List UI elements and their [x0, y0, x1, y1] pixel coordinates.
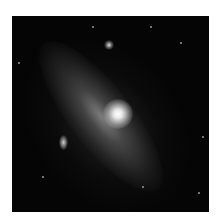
star: [142, 186, 144, 188]
star: [92, 26, 94, 28]
star: [18, 62, 20, 64]
star: [198, 192, 200, 194]
galaxy-image: [12, 16, 209, 212]
galaxy-core: [103, 99, 133, 129]
star: [42, 176, 44, 178]
satellite-galaxy-lower: [59, 135, 68, 150]
star: [202, 136, 204, 138]
satellite-galaxy-upper: [104, 40, 114, 50]
star: [150, 26, 152, 28]
star: [180, 42, 182, 44]
